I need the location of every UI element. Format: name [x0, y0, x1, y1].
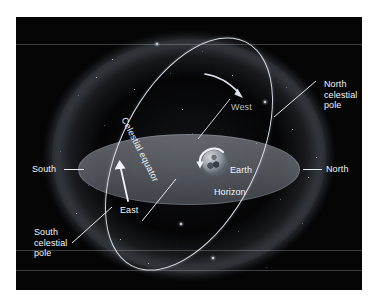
south-celestial-pole-leader-line [70, 205, 114, 245]
north-label: North [326, 164, 349, 175]
north-celestial-pole-label: North celestial pole [324, 79, 357, 111]
illustration-panel: North celestial pole South celestial pol… [16, 17, 362, 290]
horizon-label: Horizon [214, 187, 246, 198]
south-label: South [32, 164, 56, 175]
east-leader-line [138, 177, 178, 223]
figure-page: North celestial pole South celestial pol… [0, 0, 379, 308]
south-leader-line [64, 169, 84, 170]
north-leader-line [303, 169, 322, 170]
west-leader-line [194, 97, 232, 141]
east-label: East [120, 205, 138, 216]
west-label: West [231, 102, 252, 113]
earth-rotation-arrow [192, 141, 234, 183]
north-celestial-pole-leader-line [272, 77, 318, 121]
south-celestial-pole-label: South celestial pole [34, 227, 67, 259]
ring-motion-arrow-up [112, 156, 138, 204]
earth-label: Earth [230, 165, 252, 176]
